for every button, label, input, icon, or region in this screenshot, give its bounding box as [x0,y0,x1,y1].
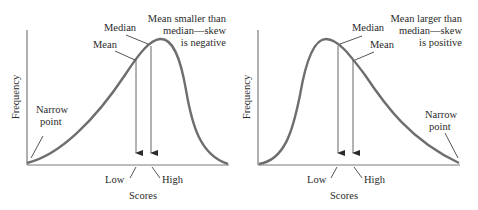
skew-diagram: Mean smaller than median—skew is negativ… [0,0,478,210]
mean-leader [115,51,135,60]
annotation-line3: is positive [419,37,462,48]
x-axis-label: Scores [330,190,358,201]
high-label: High [162,174,184,185]
low-label: Low [307,174,327,185]
mean-label: Mean [93,39,118,50]
narrow-label-line2: point [429,121,451,132]
low-label: Low [105,174,125,185]
annotation-line1: Mean smaller than [148,13,227,24]
distribution-curve [259,39,459,164]
narrow-label-line2: point [40,116,62,127]
mean-leader [355,52,374,60]
annotation-line2: median—skew [163,25,226,36]
narrow-leader [31,136,43,158]
median-label: Median [104,22,137,33]
mean-label: Mean [370,39,395,50]
x-axis-label: Scores [129,190,157,201]
median-label: Median [352,22,385,33]
high-leader [354,167,362,178]
y-axis-label: Frequency [241,74,252,119]
narrow-label-line1: Narrow [425,109,457,120]
panel-negative-skew: Mean smaller than median—skew is negativ… [10,13,229,201]
distribution-curve [27,39,228,164]
y-axis-label: Frequency [10,74,21,119]
low-leader [331,167,337,178]
annotation-line2: median—skew [399,25,462,36]
narrow-leader [445,133,458,158]
panel-positive-skew: Mean larger than median—skew is positive… [241,13,463,201]
annotation-line1: Mean larger than [390,13,462,24]
median-leader [340,36,362,44]
narrow-label-line1: Narrow [36,104,68,115]
high-label: High [364,174,386,185]
annotation-line3: is negative [181,37,227,48]
low-leader [130,167,136,178]
median-leader [126,35,148,44]
high-leader [152,167,160,178]
